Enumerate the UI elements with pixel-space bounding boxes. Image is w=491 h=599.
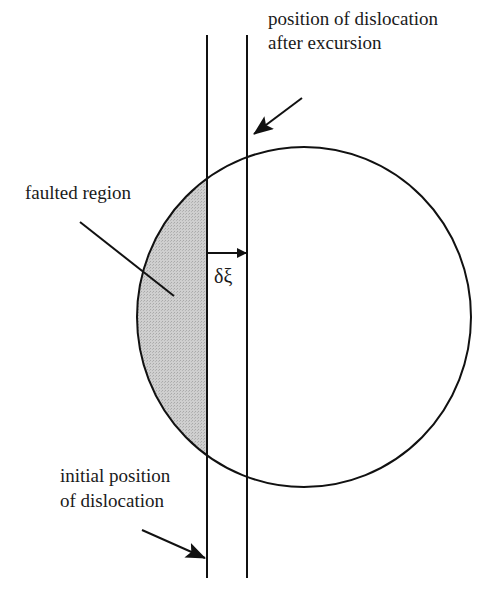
after-excursion-label-line1: position of dislocation bbox=[268, 7, 438, 31]
initial-position-pointer-arrow bbox=[142, 530, 205, 558]
displacement-label: δξ bbox=[214, 264, 232, 288]
faulted-region-label: faulted region bbox=[25, 181, 131, 205]
initial-position-label-line1: initial position bbox=[60, 464, 170, 488]
after-excursion-pointer-arrow bbox=[254, 98, 302, 134]
after-excursion-label-line2: after excursion bbox=[268, 31, 381, 55]
faulted-region-fill bbox=[137, 147, 471, 487]
initial-position-label-line2: of dislocation bbox=[60, 489, 164, 513]
